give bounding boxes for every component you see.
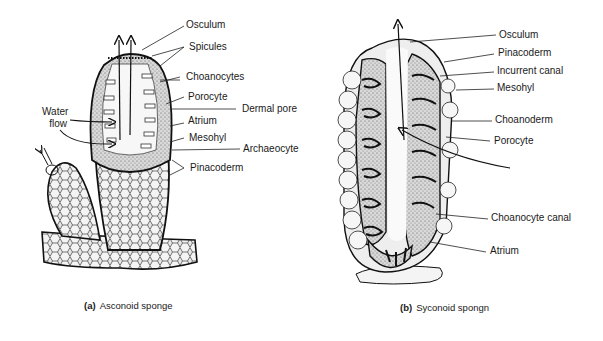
caption-b-text: Syconoid spongn: [416, 302, 489, 313]
caption-a: (a)Asconoid sponge: [84, 300, 173, 311]
label-mesohyl-b: Mesohyl: [497, 82, 534, 94]
label-water: Water: [42, 106, 68, 117]
label-osculum-b: Osculum: [499, 29, 538, 41]
caption-b-letter: (b): [400, 302, 412, 313]
label-mesohyl-a: Mesohyl: [189, 132, 226, 144]
label-porocyte-a: Porocyte: [188, 91, 227, 103]
label-flow: flow: [49, 118, 67, 129]
label-choanocytes-a: Choanocytes: [186, 71, 244, 83]
syconoid-sponge-drawing: [338, 24, 510, 284]
asconoid-sponge-drawing: [40, 26, 240, 269]
caption-a-letter: (a): [84, 300, 96, 311]
label-spicules-a: Spicules: [189, 41, 227, 53]
label-atrium-a: Atrium: [188, 115, 217, 127]
label-archaeocyte-a: Archaeocyte: [243, 143, 299, 155]
label-choanoderm-b: Choanoderm: [495, 114, 553, 126]
label-porocyte-b: Porocyte: [494, 135, 533, 147]
label-pinacoderm-a: Pinacoderm: [190, 162, 243, 174]
label-choanocyte-canal-b: Choanocyte canal: [491, 212, 571, 224]
label-incurrent-canal-b: Incurrent canal: [497, 65, 563, 77]
label-water-flow-a: Water flow: [42, 106, 68, 130]
caption-a-text: Asconoid sponge: [100, 300, 173, 311]
label-pinacoderm-b: Pinacoderm: [498, 47, 551, 59]
label-dermal-pore-a: Dermal pore: [242, 103, 297, 115]
label-osculum-a: Osculum: [186, 19, 225, 31]
caption-b: (b)Syconoid spongn: [400, 302, 489, 313]
label-atrium-b: Atrium: [490, 245, 519, 257]
